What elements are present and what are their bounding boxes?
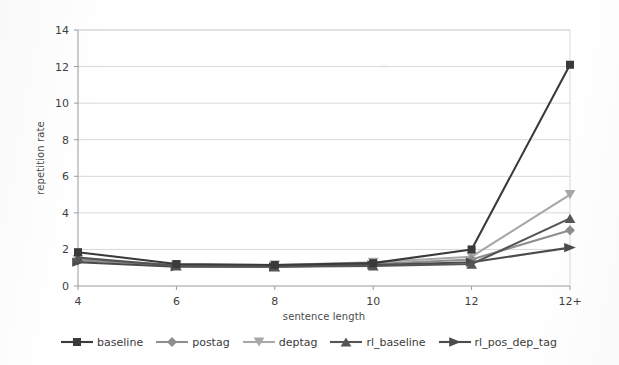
y-axis-title: repetition rate [35,121,46,194]
legend-item-rl_pos_dep_tag[interactable]: rl_pos_dep_tag [438,335,559,349]
data-series-layer [72,61,576,272]
y-tick-label-2: 2 [62,243,69,256]
y-tick-label-0: 0 [62,280,69,293]
x-tick-label-12+: 12+ [558,295,581,308]
legend-marker-square-icon [60,335,94,349]
legend-item-rl_baseline[interactable]: rl_baseline [329,335,427,349]
legend-marker-arrow-right-icon [438,335,472,349]
legend-marker-diamond-icon [155,335,189,349]
x-tick-label-4: 4 [75,295,82,308]
marker-square [73,338,81,346]
legend-label-rl_baseline: rl_baseline [363,336,427,349]
legend-label-rl_pos_dep_tag: rl_pos_dep_tag [472,336,559,349]
y-tick-label-12: 12 [55,61,69,74]
marker-square [468,245,476,253]
x-tick-label-6: 6 [173,295,180,308]
marker-diamond [565,225,575,235]
series-baseline [74,61,574,269]
legend-item-baseline[interactable]: baseline [60,335,145,349]
legend-label-baseline: baseline [94,336,145,349]
y-tick-label-4: 4 [62,207,69,220]
marker-arrow-right [449,337,461,346]
x-axis-title: sentence length [283,311,365,322]
marker-diamond [167,337,177,347]
marker-square [74,248,82,256]
x-tick-label-10: 10 [366,295,380,308]
y-tick-label-10: 10 [55,97,69,110]
legend-item-postag[interactable]: postag [155,335,231,349]
x-tick-label-12: 12 [465,295,479,308]
x-tick-label-8: 8 [271,295,278,308]
gridlines [78,30,570,286]
y-tick-label-8: 8 [62,134,69,147]
y-tick-label-6: 6 [62,170,69,183]
chart-legend: baselinepostagdeptagrl_baselinerl_pos_de… [0,330,619,354]
legend-item-deptag[interactable]: deptag [242,335,320,349]
marker-square [271,261,279,269]
marker-square [172,260,180,268]
axes [78,30,570,286]
series-line-baseline [78,65,570,265]
marker-triangle-up [565,214,576,223]
line-chart-plot: 02468101214 468101212+ repetition rate s… [0,0,619,330]
y-tick-label-14: 14 [55,24,69,37]
chart-figure: 02468101214 468101212+ repetition rate s… [0,0,619,365]
legend-label-deptag: deptag [276,336,320,349]
marker-square [369,259,377,267]
x-axis-tick-labels: 468101212+ [75,286,582,308]
legend-marker-triangle-down-icon [242,335,276,349]
legend-marker-triangle-up-icon [329,335,363,349]
legend-label-postag: postag [189,336,231,349]
marker-square [566,61,574,69]
